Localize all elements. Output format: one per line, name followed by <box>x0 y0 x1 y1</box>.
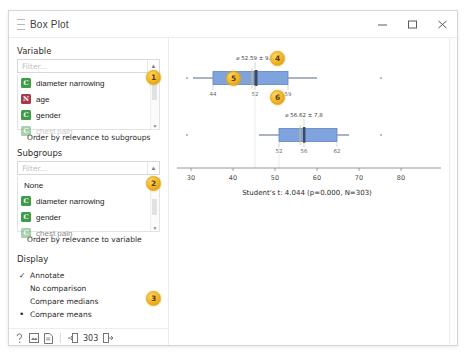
window-grip-icon <box>17 19 25 30</box>
option-no-comparison[interactable]: No comparison <box>9 282 168 295</box>
scroll-down-icon[interactable]: ▼ <box>153 225 158 231</box>
subgroups-filter-placeholder: Filter... <box>18 164 47 173</box>
maximize-icon[interactable] <box>397 12 427 36</box>
control-pane: Variable 1 Filter... ▲ C diameter narrow… <box>9 38 169 346</box>
plot-scrollbar[interactable] <box>449 38 457 346</box>
option-label: Annotate <box>30 271 64 280</box>
list-item[interactable]: None <box>18 177 159 193</box>
x-tick-label: 40 <box>229 174 237 182</box>
x-tick-label: 70 <box>355 174 363 182</box>
outlier-point <box>380 134 382 136</box>
help-icon[interactable] <box>15 333 24 344</box>
instance-count: 303 <box>83 334 98 343</box>
list-item-label: age <box>36 95 49 104</box>
list-item[interactable]: C gender <box>18 209 159 225</box>
scroll-down-icon[interactable]: ▼ <box>153 123 158 129</box>
box-plot-svg: 44 52 59 ⌀ 52.59 ± 9.5 <box>169 38 458 346</box>
list-item[interactable]: C gender <box>18 107 159 123</box>
median-marker <box>255 70 258 86</box>
variable-filter-input[interactable]: Filter... ▲ <box>17 59 160 73</box>
subgroups-filter-input[interactable]: Filter... ▲ <box>17 161 160 175</box>
check-icon: ✓ <box>19 271 30 280</box>
badge-3: 3 <box>146 291 161 306</box>
scrollbar-thumb[interactable] <box>152 199 157 215</box>
input-summary-icon[interactable] <box>68 333 78 343</box>
outlier-point <box>186 134 188 136</box>
x-tick-label: 30 <box>187 174 195 182</box>
list-item-label: diameter narrowing <box>36 79 104 88</box>
scrollbar-thumb[interactable] <box>152 84 157 100</box>
option-annotate[interactable]: ✓ Annotate <box>9 269 168 282</box>
badge-1: 1 <box>146 70 161 85</box>
box-iqr <box>279 129 337 142</box>
categorical-icon: C <box>21 212 31 222</box>
numeric-icon: N <box>21 94 31 104</box>
option-label: No comparison <box>30 284 86 293</box>
subgroups-section-heading: Subgroups <box>9 144 168 161</box>
window-body: Variable 1 Filter... ▲ C diameter narrow… <box>9 38 457 346</box>
badge-4: 4 <box>270 51 285 66</box>
x-tick-label: 60 <box>313 174 321 182</box>
group1-annotation: ⌀ 52.59 ± 9.5 <box>236 55 274 61</box>
box-iqr <box>213 72 288 85</box>
box-plot-canvas[interactable]: 44 52 59 ⌀ 52.59 ± 9.5 <box>169 38 457 346</box>
list-item-label: chest pain <box>36 127 72 136</box>
display-options: ✓ Annotate No comparison Compare medians… <box>9 267 168 321</box>
outlier-point <box>186 77 188 79</box>
list-item-label: chest pain <box>36 229 72 238</box>
plot-pane: 44 52 59 ⌀ 52.59 ± 9.5 <box>169 38 457 346</box>
list-item-label: gender <box>36 213 61 222</box>
close-icon[interactable] <box>427 12 457 36</box>
group1-tick-label: 59 <box>285 91 292 97</box>
list-item-label: gender <box>36 111 61 120</box>
window-controls <box>367 12 457 36</box>
box-plot-window: Box Plot Variable 1 Filter... ▲ <box>8 10 458 346</box>
title-bar: Box Plot <box>9 11 457 38</box>
group2-tick-label: 62 <box>334 148 341 154</box>
variable-section-heading: Variable <box>9 42 168 59</box>
window-title: Box Plot <box>30 19 69 30</box>
output-summary-icon[interactable] <box>103 333 113 343</box>
statistical-test-caption: Student's t: 4.044 (p=0.000, N=303) <box>242 189 372 197</box>
list-item[interactable]: C diameter narrowing <box>18 193 159 209</box>
categorical-icon: C <box>21 110 31 120</box>
badge-6: 6 <box>270 90 285 105</box>
outlier-point <box>380 77 382 79</box>
badge-5: 5 <box>226 71 241 86</box>
group1-tick-label: 44 <box>210 91 217 97</box>
categorical-icon: C <box>21 78 31 88</box>
variable-list[interactable]: C diameter narrowing N age C gender C ch… <box>17 75 160 130</box>
variable-filter-placeholder: Filter... <box>18 62 47 71</box>
group2-tick-label: 56 <box>301 148 308 154</box>
report-icon[interactable] <box>44 333 53 344</box>
display-section-heading: Display <box>9 246 168 267</box>
chevron-up-icon[interactable]: ▲ <box>147 162 159 174</box>
option-compare-medians[interactable]: Compare medians <box>9 295 168 308</box>
categorical-icon: C <box>21 196 31 206</box>
status-bar: 303 <box>9 328 168 346</box>
option-label: Compare medians <box>30 297 98 306</box>
option-label: Compare means <box>30 310 92 319</box>
median-marker <box>303 127 305 143</box>
minimize-icon[interactable] <box>367 12 397 36</box>
x-tick-label: 80 <box>397 174 405 182</box>
list-item[interactable]: N age <box>18 91 159 107</box>
badge-2: 2 <box>146 176 161 191</box>
categorical-icon: C <box>21 126 31 136</box>
status-divider <box>60 333 61 343</box>
subgroups-list[interactable]: None C diameter narrowing C gender C che… <box>17 177 160 232</box>
list-item-label: None <box>24 181 43 190</box>
option-compare-means[interactable]: • Compare means <box>9 308 168 321</box>
save-image-icon[interactable] <box>29 333 39 343</box>
list-item[interactable]: C chest pain <box>18 123 159 139</box>
list-item-label: diameter narrowing <box>36 197 104 206</box>
group2-annotation: ⌀ 56.62 ± 7.8 <box>285 112 323 118</box>
x-tick-label: 50 <box>271 174 279 182</box>
list-item[interactable]: C chest pain <box>18 225 159 241</box>
radio-selected-icon: • <box>19 311 30 318</box>
categorical-icon: C <box>21 228 31 238</box>
list-item[interactable]: C diameter narrowing <box>18 75 159 91</box>
